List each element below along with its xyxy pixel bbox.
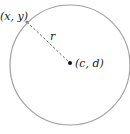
circle-diagram: (x, y) r (c, d) [0, 0, 130, 134]
center-dot [68, 61, 72, 65]
radius-label: r [50, 30, 56, 43]
center-label: (c, d) [75, 57, 104, 70]
radius-dashed-line [27, 22, 70, 63]
point-label: (x, y) [0, 10, 28, 23]
